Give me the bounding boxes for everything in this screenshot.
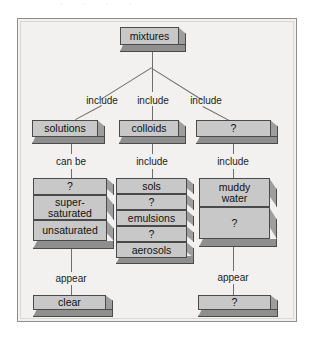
stack-cell-unknown[interactable]: ? [199,207,277,239]
cell-label: ? [116,194,187,210]
cell-3d-side [186,210,194,226]
node-3d-side [97,120,105,137]
stack-cell-unknown[interactable]: ? [33,178,114,195]
node-3d-side [105,295,113,310]
node-3d-bottom [120,44,186,52]
cell-3d-side [106,220,114,241]
connector-appear-result [233,284,234,295]
cell-label: ? [199,207,270,239]
node-label: colloids [119,120,179,137]
cell-label: emulsions [116,210,187,226]
stack-cell-unknown-2[interactable]: ? [116,226,194,242]
node-mixtures[interactable]: mixtures [120,27,186,52]
connector-appear-clear [71,285,72,295]
stack-colloids: sols ? emulsions ? aerosols [116,178,194,264]
stack-solutions: ? super- saturated unsaturated [33,178,114,249]
node-3d-side [178,120,186,137]
node-clear[interactable]: clear [33,295,113,317]
cell-3d-side [186,194,194,210]
node-label: ? [198,295,271,310]
edge-label-include-mid: include [125,95,181,106]
cell-label: aerosols [116,242,187,258]
cell-label-wrap: muddy water [199,178,270,207]
stack-cell-unsaturated[interactable]: unsaturated [33,220,114,241]
cell-label: sols [116,178,187,194]
stack-cell-unknown-1[interactable]: ? [116,194,194,210]
node-3d-bottom [33,309,113,317]
node-suspensions-result[interactable]: ? [198,295,278,317]
node-3d-bottom [32,136,105,144]
node-label: clear [33,295,106,310]
node-colloids[interactable]: colloids [119,120,186,144]
cell-3d-side [186,226,194,242]
edge-label-can-be: can be [43,156,99,167]
cell-label: unsaturated [33,220,107,241]
node-label: ? [196,120,271,137]
edge-label-appear-right: appear [205,272,261,283]
connector-stack-appear [71,249,72,272]
connector-canbe-stack [71,169,72,178]
node-label: solutions [32,120,98,137]
node-3d-bottom [198,309,278,317]
stack-3d-bottom [33,241,114,249]
node-label: mixtures [120,27,179,45]
connector-include-mid-down [152,106,153,120]
stack-cell-sols[interactable]: sols [116,178,194,194]
node-solutions[interactable]: solutions [32,120,105,144]
cell-3d-side [106,178,114,195]
cell-label: ? [116,226,187,242]
connector-include-suspensions-stack [233,169,234,178]
edge-label-include-colloids: include [124,156,180,167]
cell-3d-side [269,207,277,239]
node-3d-bottom [196,136,278,144]
edge-label-include-right: include [178,95,234,106]
cell-label-wrap: super- saturated [33,195,107,220]
cell-label-line1: super- [55,197,85,208]
cell-label-line2: saturated [48,208,92,219]
node-3d-side [270,120,278,137]
cell-label: ? [33,178,107,195]
node-3d-bottom [119,136,186,144]
cell-3d-side [106,195,114,220]
node-3d-side [270,295,278,310]
node-suspensions-unknown[interactable]: ? [196,120,278,144]
cell-3d-side [186,242,194,258]
stack-suspensions: muddy water ? [199,178,277,247]
stack-3d-bottom [199,239,277,247]
edge-label-appear-left: appear [43,273,99,284]
stack-cell-muddy-water[interactable]: muddy water [199,178,277,207]
stack-cell-supersaturated[interactable]: super- saturated [33,195,114,220]
scanned-text-remnant: · · · · [60,0,270,7]
cell-label-line2: water [222,193,248,204]
stack-cell-aerosols[interactable]: aerosols [116,242,194,258]
figure-frame: mixtures include include include solutio… [17,18,297,322]
cell-label-line1: muddy [219,182,251,193]
stack-cell-emulsions[interactable]: emulsions [116,210,194,226]
cell-3d-side [269,178,277,207]
concept-map-figure: · · · · mixture [0,0,312,339]
edge-label-include-suspensions: include [205,156,261,167]
connector-root-stem [152,52,153,68]
connector-include-colloids-stack [152,169,153,178]
connector-root-mid [152,68,153,92]
edge-label-include-left: include [74,95,130,106]
cell-3d-side [186,178,194,194]
node-3d-side [178,27,186,45]
connector-suspstack-appear [233,247,234,271]
